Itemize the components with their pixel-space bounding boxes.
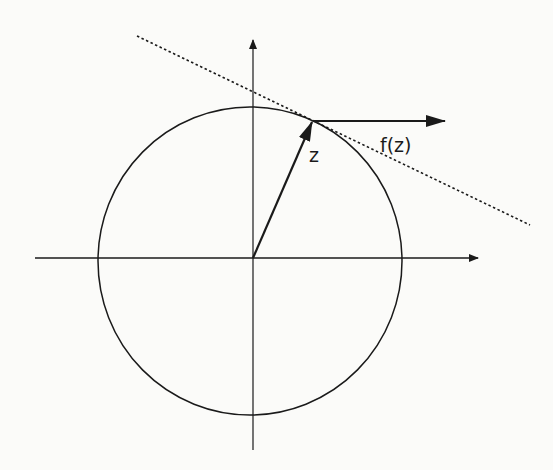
unit-circle	[98, 107, 402, 415]
diagram-canvas: z f(z)	[0, 0, 553, 470]
tangent-line	[137, 36, 530, 225]
z-vector-arrow	[253, 122, 312, 258]
z-label: z	[309, 144, 319, 166]
fz-label: f(z)	[380, 134, 412, 156]
